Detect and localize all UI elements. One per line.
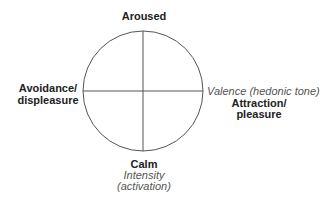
left-label-line2: displeasure	[14, 95, 82, 106]
right-label-line2: pleasure	[228, 109, 290, 120]
vertical-axis-label-line2: (activation)	[108, 181, 180, 192]
top-label-aroused: Aroused	[113, 11, 175, 22]
horizontal-axis-label: Valence (hedonic tone)	[207, 86, 320, 97]
left-label-line1: Avoidance/	[14, 83, 82, 94]
